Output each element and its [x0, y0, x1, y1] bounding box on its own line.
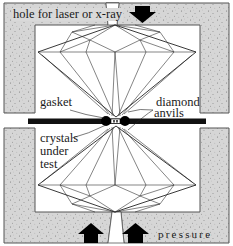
- sample-chamber: [111, 119, 120, 124]
- hole-label: hole for laser or x-ray: [12, 8, 123, 21]
- anvils-label: anvils: [154, 107, 184, 120]
- diamond-anvil-cell-diagram: hole for laser or x-ray gasket diamond a…: [0, 0, 233, 246]
- pressure-label: pressure: [158, 228, 212, 241]
- gasket-label: gasket: [40, 96, 72, 109]
- right-anvil-tip: [120, 116, 130, 126]
- diagram-canvas: [0, 0, 233, 246]
- test-label: test: [40, 158, 57, 171]
